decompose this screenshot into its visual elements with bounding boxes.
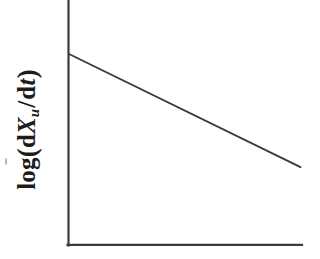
figure-container: log(dXu/dt) <box>0 0 320 259</box>
plot-svg <box>0 0 320 259</box>
scan-artifact-speck <box>5 158 7 165</box>
data-line-decay-trend <box>69 54 301 167</box>
